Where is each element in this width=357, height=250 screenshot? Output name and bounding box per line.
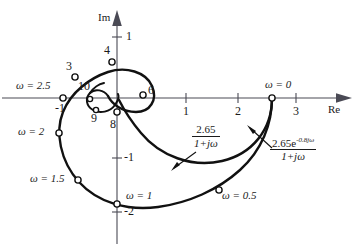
annotation-plain-transfer-function: 2.65 1+jω: [192, 123, 220, 149]
real-axis-arrowhead: [336, 93, 352, 103]
annotation-delay-denominator: 1+jω: [270, 149, 316, 163]
point-label-3: 3: [66, 60, 72, 72]
point-label-10: 10: [78, 80, 90, 92]
imaginary-axis-label: Im: [98, 12, 110, 23]
annotation-delay-exponent: -0.8jω: [296, 136, 314, 144]
annotation-plain-numerator: 2.65: [192, 123, 220, 136]
marker-point-8: [114, 109, 120, 115]
omega-label-2: ω = 2: [18, 126, 44, 137]
omega-label-1: ω = 1: [126, 190, 152, 201]
marker-omega-0: [269, 95, 275, 101]
tick-label-re-2: 2: [235, 105, 241, 117]
marker-point-10: [87, 96, 92, 101]
annotation-plain-denominator: 1+jω: [192, 136, 220, 150]
omega-label-0p5: ω = 0.5: [222, 190, 256, 201]
tick-label-im-neg2: -2: [124, 205, 134, 217]
point-label-9: 9: [91, 112, 97, 124]
marker-omega-1p5: [75, 177, 81, 183]
real-axis-label: Re: [328, 104, 340, 115]
marker-omega-1: [114, 201, 120, 207]
omega-label-1p5: ω = 1.5: [30, 173, 64, 184]
marker-point-4: [109, 59, 115, 65]
imaginary-axis-arrowhead: [112, 10, 122, 26]
leader-plain-arrowhead: [171, 162, 180, 171]
marker-omega-2: [56, 130, 62, 136]
axis-group: [2, 16, 340, 244]
tick-label-re-1: 1: [183, 105, 189, 117]
omega-label-2p5: ω = 2.5: [16, 80, 50, 91]
annotation-delay-transfer-function: 2.65e-0.8jω 1+jω: [270, 136, 316, 163]
annotation-delay-numerator: 2.65e-0.8jω: [270, 136, 316, 149]
point-label-4: 4: [104, 44, 110, 56]
marker-point-6: [140, 92, 146, 98]
annotation-delay-numerator-base: 2.65e: [272, 137, 296, 149]
tick-label-im-1: 1: [126, 30, 132, 42]
omega-label-0: ω = 0: [265, 79, 291, 90]
plot-canvas: [0, 0, 357, 250]
tick-label-re-3: 3: [293, 105, 299, 117]
point-label-6: 6: [148, 84, 154, 96]
tick-label-im-neg1: -1: [124, 151, 134, 163]
tick-label-re-neg1: -1: [55, 102, 65, 114]
nyquist-plot-figure: Im Re 1 2 3 1 -1 -2 -1 ω = 0 ω = 0.5 ω =…: [0, 0, 357, 250]
point-label-8: 8: [110, 118, 116, 130]
